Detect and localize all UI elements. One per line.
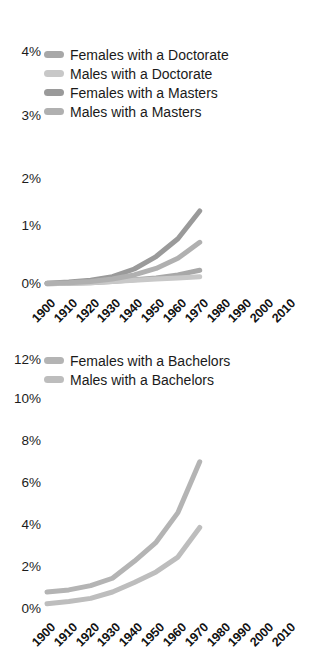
chart-panel-bachelors-degrees: 12% 10% 8% 6% 4% 2% 0% Females with a Ba… xyxy=(0,340,329,672)
legend-advanced-degrees: Females with a Doctorate Males with a Do… xyxy=(44,45,229,121)
legend-label: Females with a Masters xyxy=(70,86,218,100)
legend-item[interactable]: Males with a Bachelors xyxy=(44,370,230,389)
legend-item[interactable]: Females with a Bachelors xyxy=(44,351,230,370)
legend-swatch-icon xyxy=(44,70,64,77)
legend-item[interactable]: Females with a Doctorate xyxy=(44,45,229,64)
x-axis-ticks-top: 1900191019201930194019501960197019801990… xyxy=(0,293,329,339)
legend-swatch-icon xyxy=(44,89,64,96)
legend-swatch-icon xyxy=(44,51,64,58)
legend-label: Females with a Doctorate xyxy=(70,48,229,62)
legend-item[interactable]: Males with a Masters xyxy=(44,102,229,121)
series-line xyxy=(47,211,200,283)
legend-label: Females with a Bachelors xyxy=(70,354,230,368)
legend-swatch-icon xyxy=(44,108,64,115)
legend-swatch-icon xyxy=(44,376,64,383)
legend-label: Males with a Masters xyxy=(70,105,201,119)
legend-label: Males with a Doctorate xyxy=(70,67,212,81)
legend-item[interactable]: Males with a Doctorate xyxy=(44,64,229,83)
two-panel-line-chart-figure: 4% 3% 2% 1% 0% Females with a Doctorate … xyxy=(0,0,329,672)
legend-label: Males with a Bachelors xyxy=(70,373,214,387)
x-axis-ticks-bottom: 1900191019201930194019501960197019801990… xyxy=(0,617,329,663)
chart-panel-advanced-degrees: 4% 3% 2% 1% 0% Females with a Doctorate … xyxy=(0,0,329,340)
legend-swatch-icon xyxy=(44,357,64,364)
series-line xyxy=(47,462,200,592)
legend-item[interactable]: Females with a Masters xyxy=(44,83,229,102)
legend-bachelors-degrees: Females with a Bachelors Males with a Ba… xyxy=(44,351,230,389)
